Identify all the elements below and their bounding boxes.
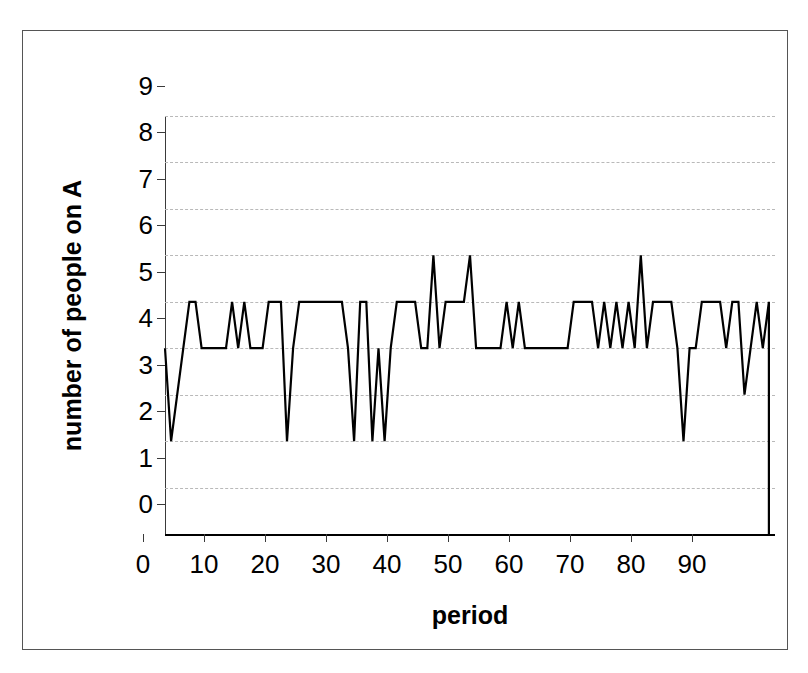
x-axis-tick-label-60: 60 bbox=[479, 551, 539, 577]
data-series-line bbox=[165, 116, 775, 534]
x-axis-tick-60 bbox=[509, 534, 510, 542]
x-axis-tick-label-40: 40 bbox=[357, 551, 417, 577]
x-axis-tick-0 bbox=[143, 534, 144, 542]
y-axis-tick-6 bbox=[157, 225, 165, 226]
y-axis-tick-label-8: 8 bbox=[123, 119, 153, 145]
y-axis-tick-9 bbox=[157, 86, 165, 87]
y-axis-tick-label-0: 0 bbox=[123, 491, 153, 517]
x-axis-tick-label-50: 50 bbox=[418, 551, 478, 577]
x-axis-tick-70 bbox=[570, 534, 571, 542]
y-axis-tick-4 bbox=[157, 318, 165, 319]
x-axis-tick-label-80: 80 bbox=[601, 551, 661, 577]
y-axis-tick-0 bbox=[157, 504, 165, 505]
gridline-y-0 bbox=[165, 534, 775, 535]
chart-page: number of people on A 0123456789 period … bbox=[0, 0, 808, 673]
y-axis-tick-label-7: 7 bbox=[123, 166, 153, 192]
y-axis-tick-label-5: 5 bbox=[123, 259, 153, 285]
y-axis-tick-1 bbox=[157, 458, 165, 459]
y-axis-tick-7 bbox=[157, 179, 165, 180]
x-axis-tick-label-20: 20 bbox=[235, 551, 295, 577]
series-polyline bbox=[165, 255, 769, 534]
y-axis-tick-label-1: 1 bbox=[123, 445, 153, 471]
x-axis-tick-label-10: 10 bbox=[174, 551, 234, 577]
y-axis-tick-2 bbox=[157, 411, 165, 412]
x-axis-tick-80 bbox=[631, 534, 632, 542]
y-axis-tick-5 bbox=[157, 272, 165, 273]
y-axis-tick-8 bbox=[157, 132, 165, 133]
y-axis-tick-label-3: 3 bbox=[123, 352, 153, 378]
x-axis-tick-label-0: 0 bbox=[113, 551, 173, 577]
x-axis-tick-90 bbox=[692, 534, 693, 542]
y-axis-tick-label-6: 6 bbox=[123, 212, 153, 238]
x-axis-tick-50 bbox=[448, 534, 449, 542]
y-axis-tick-3 bbox=[157, 365, 165, 366]
y-axis-tick-label-2: 2 bbox=[123, 398, 153, 424]
chart-frame: number of people on A 0123456789 period … bbox=[22, 30, 788, 650]
x-axis-tick-20 bbox=[265, 534, 266, 542]
x-axis-tick-40 bbox=[387, 534, 388, 542]
y-axis-tick-label-9: 9 bbox=[123, 73, 153, 99]
plot-area bbox=[165, 116, 775, 534]
x-axis-tick-10 bbox=[204, 534, 205, 542]
y-axis-title: number of people on A bbox=[58, 166, 87, 466]
x-axis-tick-label-70: 70 bbox=[540, 551, 600, 577]
x-axis-tick-label-90: 90 bbox=[662, 551, 722, 577]
x-axis-tick-label-30: 30 bbox=[296, 551, 356, 577]
y-axis-tick-label-4: 4 bbox=[123, 305, 153, 331]
x-axis-tick-30 bbox=[326, 534, 327, 542]
x-axis-title: period bbox=[165, 601, 775, 630]
